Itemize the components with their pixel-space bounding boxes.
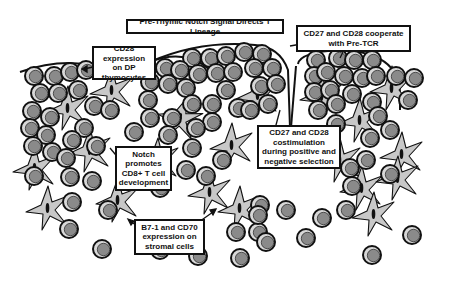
notch-cd8-text: Notch promotes CD8+ T cell development (119, 150, 168, 188)
costimulation-selection-label: CD27 and CD28 costimulation during posit… (257, 125, 341, 169)
thymus-diagram: Pre-Thymic Notch Signal Directs T Lineag… (0, 0, 449, 285)
costimulation-selection-text: CD27 and CD28 costimulation during posit… (262, 128, 336, 166)
cd28-dp-label: CD28 expression on DP thymocytes (92, 46, 156, 80)
cd27-cd28-pretcr-label: CD27 and CD28 cooperate with Pre-TCR (296, 25, 411, 52)
notch-cd8-label: Notch promotes CD8+ T cell development (115, 146, 172, 191)
title-text: Pre-Thymic Notch Signal Directs T Lineag… (131, 17, 279, 36)
b7-cd70-stromal-label: B7-1 and CD70 expression on stromal cell… (134, 219, 205, 255)
title-label: Pre-Thymic Notch Signal Directs T Lineag… (126, 19, 284, 34)
cd27-cd28-pretcr-text: CD27 and CD28 cooperate with Pre-TCR (301, 29, 406, 48)
b7-cd70-stromal-text: B7-1 and CD70 expression on stromal cell… (139, 223, 200, 252)
cd28-dp-text: CD28 expression on DP thymocytes (97, 44, 151, 82)
